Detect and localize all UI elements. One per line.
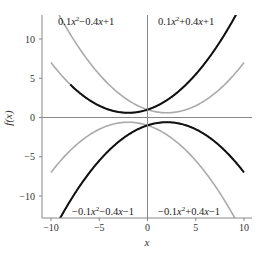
x-tick-label: −5	[94, 222, 105, 233]
annotation-bottom-right: −0.1x2+0.4x−1	[158, 205, 220, 217]
annotation-bottom-left: −0.1x2−0.4x−1	[72, 205, 134, 217]
annotation-top-left: 0.1x2−0.4x+1	[58, 15, 114, 27]
y-ticks: −10−50510	[19, 34, 42, 202]
x-tick-label: 10	[239, 222, 249, 233]
y-tick-label: 0	[30, 112, 35, 123]
annotation-top-right: 0.1x2+0.4x+1	[158, 15, 214, 27]
y-tick-label: −10	[19, 191, 35, 202]
series-line	[70, 14, 236, 112]
y-tick-label: 5	[30, 73, 35, 84]
y-tick-label: −5	[24, 151, 35, 162]
x-tick-label: 0	[145, 222, 150, 233]
y-axis-label: f(x)	[2, 110, 15, 126]
y-tick-label: 10	[25, 34, 35, 45]
x-tick-label: −10	[43, 222, 59, 233]
x-ticks: −10−50510	[43, 218, 249, 233]
x-tick-label: 5	[193, 222, 198, 233]
chart-canvas: −10−50510 −10−50510 x f(x) 0.1x2−0.4x+1 …	[0, 0, 265, 256]
x-axis-label: x	[144, 236, 150, 248]
